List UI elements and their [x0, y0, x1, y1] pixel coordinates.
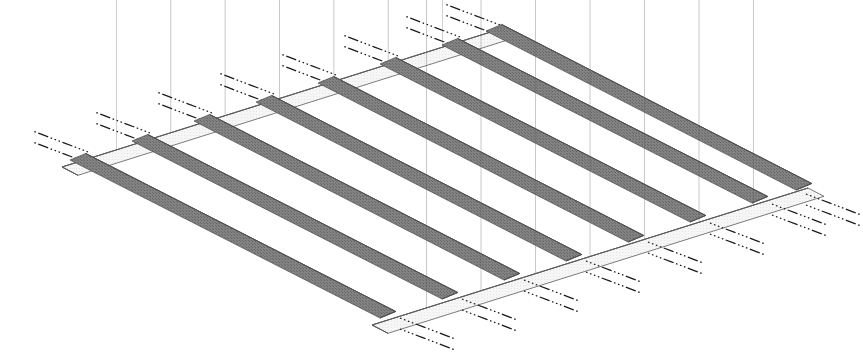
diagram-canvas	[0, 0, 863, 361]
isometric-framing-diagram	[0, 0, 863, 361]
